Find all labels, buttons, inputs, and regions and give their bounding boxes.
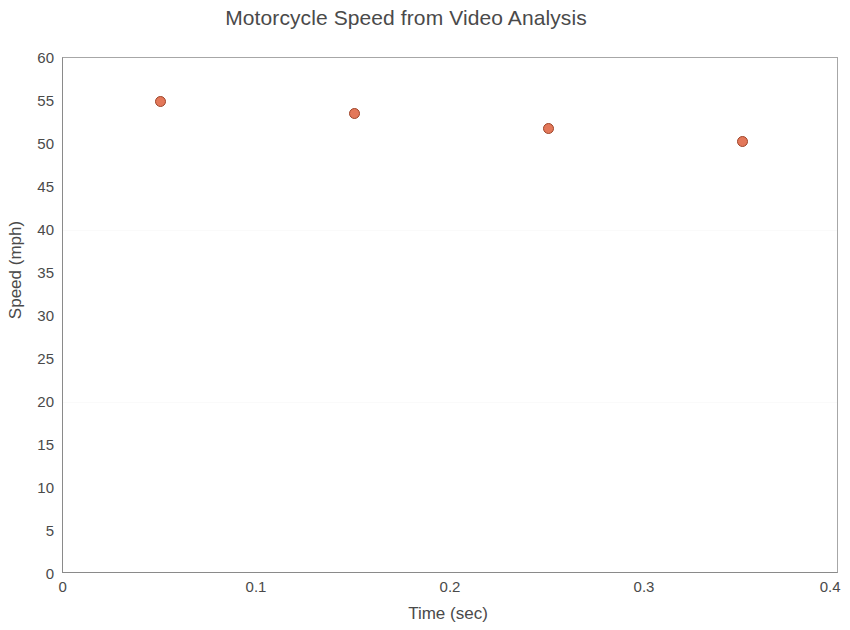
x-axis-tick-label: 0.1 bbox=[246, 578, 267, 595]
data-point bbox=[737, 136, 748, 147]
x-axis-tick-label: 0.3 bbox=[634, 578, 655, 595]
y-axis-tick-label: 55 bbox=[2, 92, 54, 109]
data-point bbox=[155, 96, 166, 107]
scan-artifact-line bbox=[63, 402, 837, 403]
y-axis-tick-label: 20 bbox=[2, 393, 54, 410]
y-axis-tick-label: 0 bbox=[2, 565, 54, 582]
plot-inner bbox=[63, 58, 837, 572]
x-axis-tick-labels: 00.10.20.30.4 bbox=[62, 578, 838, 600]
y-axis-title-text: Speed (mph) bbox=[6, 221, 25, 319]
y-axis-title: Speed (mph) bbox=[6, 150, 26, 390]
data-point bbox=[349, 108, 360, 119]
x-axis-tick-label: 0.2 bbox=[440, 578, 461, 595]
chart-figure: Motorcycle Speed from Video Analysis 051… bbox=[0, 0, 850, 630]
plot-area bbox=[62, 57, 838, 573]
y-axis-tick-label: 5 bbox=[2, 522, 54, 539]
x-axis-title: Time (sec) bbox=[62, 604, 838, 624]
y-axis-tick-label: 60 bbox=[2, 49, 54, 66]
data-point bbox=[543, 123, 554, 134]
y-axis-tick-label: 10 bbox=[2, 479, 54, 496]
x-axis-title-text: Time (sec) bbox=[408, 604, 488, 623]
x-axis-tick-label: 0 bbox=[58, 578, 66, 595]
x-axis-tick-label: 0.4 bbox=[820, 578, 841, 595]
y-axis-tick-label: 50 bbox=[2, 135, 54, 152]
scan-artifact-line bbox=[63, 230, 837, 231]
chart-title: Motorcycle Speed from Video Analysis bbox=[0, 6, 850, 30]
chart-title-text: Motorcycle Speed from Video Analysis bbox=[225, 6, 587, 29]
y-axis-tick-label: 15 bbox=[2, 436, 54, 453]
